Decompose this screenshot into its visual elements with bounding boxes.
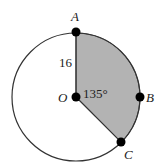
label-C: C [124, 147, 133, 162]
point-A [72, 28, 81, 37]
point-O [72, 93, 81, 102]
label-B: B [146, 90, 154, 105]
point-C [117, 138, 126, 147]
radius-length-label: 16 [59, 55, 73, 70]
label-A: A [70, 9, 79, 24]
label-O: O [58, 90, 68, 105]
circle-sector-diagram: A O B C 16 135° [0, 0, 160, 168]
angle-label: 135° [83, 86, 108, 101]
point-B [136, 93, 145, 102]
